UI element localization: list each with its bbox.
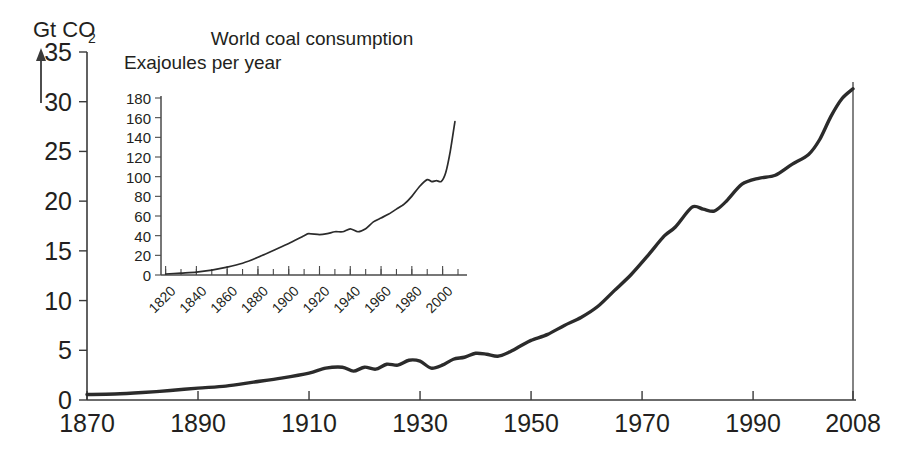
inset-y-tick-label: 140 [126,129,151,146]
inset-y-tick-label: 80 [134,188,151,205]
main-y-tick-group: 05101520253035 [44,38,87,414]
inset-x-tick-group: 1820184018601880190019201940196019802000 [145,266,458,316]
main-x-tick-label: 1970 [614,409,670,437]
inset-x-tick-label: 1920 [299,283,332,316]
inset-y-axis-unit-label: Exajoules per year [124,52,282,73]
main-x-tick-label: 1930 [392,409,448,437]
main-y-tick-label: 35 [44,38,72,66]
main-series-line [87,89,853,395]
inset-x-tick-label: 2000 [422,283,455,316]
main-x-tick-label: 1890 [170,409,226,437]
main-y-tick-label: 15 [44,237,72,265]
inset-y-tick-label: 180 [126,90,151,107]
main-y-tick-label: 30 [44,88,72,116]
inset-x-tick-label: 1900 [268,283,301,316]
inset-y-tick-label: 100 [126,169,151,186]
inset-y-tick-label: 160 [126,110,151,127]
inset-y-tick-group: 020406080100120140160180 [126,90,161,284]
inset-series-line [166,122,455,274]
main-x-tick-label: 2008 [825,409,881,437]
chart-canvas: Gt CO 2 05101520253035 18701890191019301… [0,0,921,461]
main-y-tick-label: 10 [44,287,72,315]
inset-panel: World coal consumption Exajoules per yea… [124,28,467,316]
inset-x-tick-label: 1820 [145,283,178,316]
main-y-tick-label: 25 [44,137,72,165]
main-x-tick-label: 1950 [503,409,559,437]
main-x-tick-group: 18701890191019301950197019902008 [59,391,881,437]
inset-y-tick-label: 120 [126,149,151,166]
main-x-tick-label: 1910 [281,409,337,437]
inset-y-tick-label: 60 [134,208,151,225]
inset-x-tick-label: 1980 [392,283,425,316]
inset-chart-title: World coal consumption [211,28,413,49]
inset-x-tick-label: 1940 [330,283,363,316]
inset-x-tick-label: 1860 [207,283,240,316]
inset-x-tick-label: 1840 [176,283,209,316]
inset-x-tick-label: 1880 [238,283,271,316]
main-x-tick-label: 1990 [725,409,781,437]
inset-y-tick-label: 0 [143,267,151,284]
inset-x-tick-label: 1960 [361,283,394,316]
main-y-tick-label: 5 [58,336,72,364]
main-y-axis-unit-subscript: 2 [88,30,96,46]
figure-co2-emissions-chart: Gt CO 2 05101520253035 18701890191019301… [0,0,921,461]
inset-y-tick-label: 40 [134,228,151,245]
inset-y-tick-label: 20 [134,247,151,264]
main-x-tick-label: 1870 [59,409,115,437]
main-y-tick-label: 20 [44,187,72,215]
